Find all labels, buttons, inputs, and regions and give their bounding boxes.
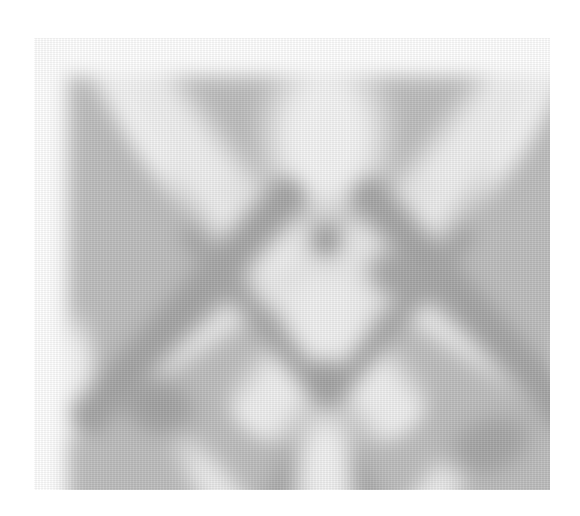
dark-band xyxy=(304,354,348,398)
dark-band xyxy=(306,221,346,261)
diffraction-pattern-frame xyxy=(34,38,550,490)
image-canvas xyxy=(0,0,580,516)
diffraction-pattern xyxy=(68,76,550,490)
